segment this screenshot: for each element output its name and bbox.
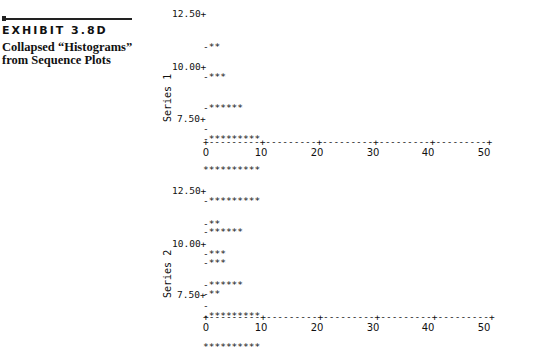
- row: -******: [203, 103, 260, 113]
- y-label-bottom: 7.50+: [177, 290, 206, 300]
- x-tick: 30: [367, 147, 380, 158]
- y-label-top: 12.50+: [172, 186, 206, 196]
- x-tick: 20: [311, 147, 324, 158]
- row: -******: [203, 280, 260, 290]
- x-tick: 50: [478, 322, 491, 333]
- x-axis-line: +---------+---------+---------+---------…: [203, 311, 495, 322]
- y-axis-dash: -: [203, 124, 209, 134]
- histogram-rows: -** -*** -****** -********* ********** -…: [203, 198, 260, 349]
- row: -**: [203, 219, 260, 229]
- x-tick: 0: [203, 147, 209, 158]
- series-2-plot: Series 2 12.50+ -** -*** -****** -******…: [0, 178, 533, 349]
- y-axis-label: Series 1: [162, 74, 173, 122]
- x-tick: 10: [255, 322, 268, 333]
- row: **********: [203, 342, 260, 349]
- x-axis-line: +---------+---------+---------+---------…: [203, 136, 492, 147]
- row: **********: [203, 165, 260, 175]
- x-tick: 30: [367, 322, 380, 333]
- x-tick: 20: [311, 322, 324, 333]
- y-label-mid: 10.00+: [172, 62, 206, 72]
- y-axis-dash: -: [203, 301, 209, 311]
- x-tick: 40: [422, 147, 435, 158]
- y-label-mid: 10.00+: [172, 239, 206, 249]
- series-1-plot: Series 1 12.50+ -** -*** -****** -******…: [0, 0, 533, 175]
- y-label-top: 12.50+: [172, 9, 206, 19]
- y-axis-label: Series 2: [162, 250, 173, 298]
- x-tick: 50: [478, 147, 491, 158]
- row: -***: [203, 249, 260, 259]
- x-tick: 0: [203, 322, 209, 333]
- y-label-bottom: 7.50+: [177, 114, 206, 124]
- x-tick: 40: [422, 322, 435, 333]
- row: -**: [203, 42, 260, 52]
- x-tick: 10: [255, 147, 268, 158]
- row: -***: [203, 72, 260, 82]
